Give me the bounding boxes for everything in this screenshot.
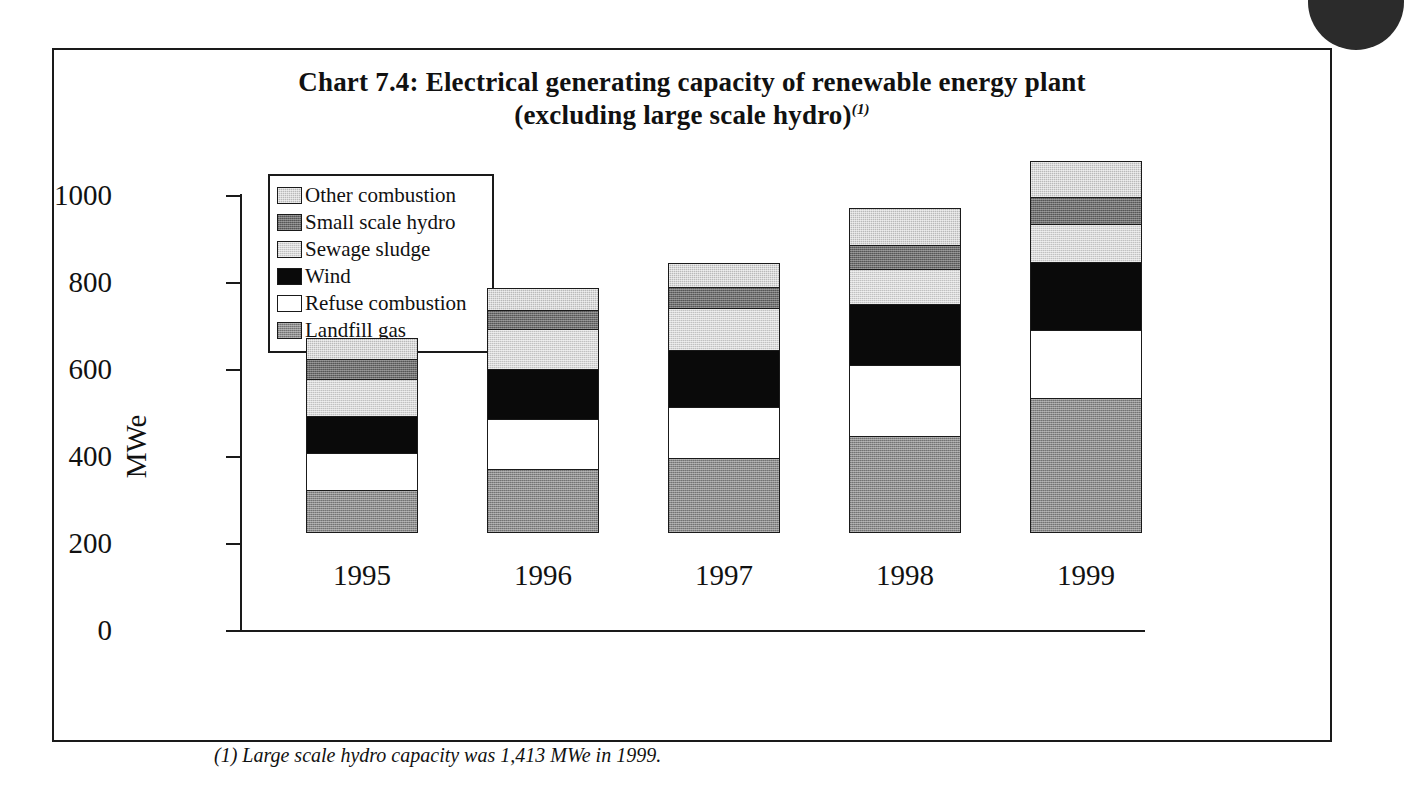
- stacked-bar-1996[interactable]: [487, 288, 599, 533]
- stacked-bar-1999[interactable]: [1030, 161, 1142, 533]
- y-tick-200: [226, 543, 241, 545]
- y-tick-1000: [226, 195, 241, 197]
- y-axis-title: MWe: [120, 357, 153, 537]
- bar-segment-refuse-combustion-1997[interactable]: [668, 407, 780, 458]
- bar-segment-refuse-combustion-1995[interactable]: [306, 453, 418, 490]
- bar-segment-refuse-combustion-1998[interactable]: [849, 365, 961, 435]
- bar-segment-sewage-sludge-1996[interactable]: [487, 329, 599, 368]
- y-tick-label-0: 0: [0, 616, 112, 645]
- y-tick-0: [226, 630, 241, 632]
- y-tick-800: [226, 282, 241, 284]
- bar-segment-refuse-combustion-1996[interactable]: [487, 419, 599, 469]
- y-tick-label-200: 200: [0, 529, 112, 558]
- x-tick-label-1995: 1995: [286, 561, 438, 590]
- chart-footnote: (1) Large scale hydro capacity was 1,413…: [214, 745, 661, 765]
- plot-area: MWe 0 200 400 600 800 1000 Other combust…: [54, 50, 1330, 740]
- bar-segment-small-scale-hydro-1998[interactable]: [849, 245, 961, 269]
- bar-segment-small-scale-hydro-1999[interactable]: [1030, 197, 1142, 224]
- bar-segment-sewage-sludge-1997[interactable]: [668, 308, 780, 350]
- bar-segment-landfill-gas-1997[interactable]: [668, 458, 780, 533]
- bar-segment-small-scale-hydro-1996[interactable]: [487, 310, 599, 330]
- x-tick-label-1998: 1998: [829, 561, 981, 590]
- bar-segment-wind-1997[interactable]: [668, 350, 780, 407]
- y-tick-label-400: 400: [0, 442, 112, 471]
- stacked-bar-1995[interactable]: [306, 338, 418, 533]
- x-tick-label-1996: 1996: [467, 561, 619, 590]
- bar-segment-sewage-sludge-1995[interactable]: [306, 379, 418, 416]
- y-tick-label-600: 600: [0, 355, 112, 384]
- y-tick-600: [226, 369, 241, 371]
- bar-segment-landfill-gas-1998[interactable]: [849, 436, 961, 533]
- bar-segment-wind-1996[interactable]: [487, 369, 599, 419]
- y-tick-label-800: 800: [0, 268, 112, 297]
- bar-segment-sewage-sludge-1998[interactable]: [849, 269, 961, 304]
- stacked-bar-1998[interactable]: [849, 208, 961, 533]
- bar-segment-other-combustion-1997[interactable]: [668, 263, 780, 287]
- bars-container: 19951996199719981999: [240, 50, 1145, 740]
- y-tick-label-1000: 1000: [0, 181, 112, 210]
- bar-segment-small-scale-hydro-1995[interactable]: [306, 359, 418, 379]
- bar-segment-landfill-gas-1996[interactable]: [487, 469, 599, 533]
- bar-segment-landfill-gas-1995[interactable]: [306, 490, 418, 534]
- bar-segment-sewage-sludge-1999[interactable]: [1030, 224, 1142, 262]
- stacked-bar-1997[interactable]: [668, 263, 780, 533]
- chart-figure-frame: Chart 7.4: Electrical generating capacit…: [52, 48, 1332, 742]
- bar-segment-other-combustion-1998[interactable]: [849, 208, 961, 246]
- bar-segment-other-combustion-1996[interactable]: [487, 288, 599, 310]
- bar-segment-wind-1999[interactable]: [1030, 262, 1142, 329]
- bar-segment-other-combustion-1999[interactable]: [1030, 161, 1142, 197]
- bar-segment-other-combustion-1995[interactable]: [306, 338, 418, 359]
- bar-segment-wind-1998[interactable]: [849, 304, 961, 365]
- bar-segment-refuse-combustion-1999[interactable]: [1030, 330, 1142, 398]
- bar-segment-wind-1995[interactable]: [306, 416, 418, 453]
- bar-segment-landfill-gas-1999[interactable]: [1030, 398, 1142, 533]
- x-tick-label-1997: 1997: [648, 561, 800, 590]
- y-tick-400: [226, 456, 241, 458]
- bar-segment-small-scale-hydro-1997[interactable]: [668, 287, 780, 308]
- x-tick-label-1999: 1999: [1010, 561, 1162, 590]
- page-thumb-artifact: [1308, 0, 1404, 50]
